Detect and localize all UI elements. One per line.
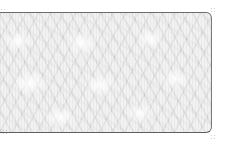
corner-speck: [210, 7, 216, 13]
corner-speck: [210, 134, 216, 140]
texture-swatch: [0, 12, 212, 133]
corner-speck: [2, 129, 8, 135]
canvas: [0, 0, 227, 148]
